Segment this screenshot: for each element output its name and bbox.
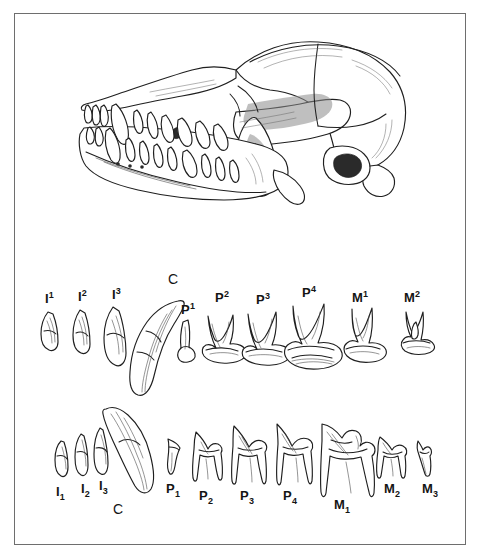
upper-label-I1: I1: [45, 292, 54, 305]
lower-tooth-P4: [277, 424, 313, 485]
upper-label-P2: P2: [215, 291, 229, 304]
lower-label-I1: I1: [56, 485, 65, 498]
lower-tooth-P1: [168, 439, 180, 474]
upper-label-M1: M1: [352, 291, 368, 304]
lower-tooth-row: [55, 408, 432, 497]
skull-lateral-view: [79, 42, 405, 205]
upper-tooth-P4: [285, 304, 343, 369]
upper-tooth-P1: [178, 320, 195, 362]
illustration-plate: .ol{fill:#ffffff;stroke:#1f1f1f;stroke-w…: [0, 0, 477, 555]
lower-label-P4: P4: [283, 489, 297, 502]
lower-tooth-I2: [75, 434, 88, 476]
lower-label-C: C: [113, 502, 123, 516]
upper-tooth-I1: [41, 312, 58, 351]
lower-label-M2: M2: [384, 482, 400, 495]
lower-tooth-M3: [417, 441, 431, 476]
lower-tooth-P3: [232, 426, 267, 484]
upper-label-P1: P1: [181, 303, 195, 316]
upper-tooth-P2: [202, 315, 246, 363]
lower-tooth-M1: [321, 424, 375, 497]
upper-tooth-M1: [344, 308, 386, 362]
upper-tooth-row: [41, 301, 435, 396]
upper-label-I3: I3: [112, 288, 121, 301]
lower-tooth-I3: [94, 428, 108, 474]
lower-label-P2: P2: [199, 489, 213, 502]
upper-label-M2: M2: [404, 291, 420, 304]
upper-tooth-M2: [401, 312, 434, 354]
upper-label-I2: I2: [78, 290, 87, 303]
upper-label-P4: P4: [302, 286, 316, 299]
lower-tooth-C: [103, 408, 154, 493]
upper-label-P3: P3: [256, 293, 270, 306]
upper-tooth-C: [130, 301, 184, 396]
lower-label-M3: M3: [422, 482, 438, 495]
lower-label-I2: I2: [81, 482, 90, 495]
upper-tooth-I2: [73, 310, 90, 354]
upper-tooth-I3: [104, 307, 126, 366]
lower-label-M1: M1: [334, 498, 350, 511]
upper-tooth-P3: [242, 312, 290, 365]
lower-tooth-M2: [377, 437, 407, 478]
lower-tooth-P2: [193, 432, 223, 481]
upper-label-C: C: [168, 272, 178, 286]
lower-tooth-I1: [55, 441, 68, 477]
lower-label-I3: I3: [99, 479, 108, 492]
plate-artwork: .ol{fill:#ffffff;stroke:#1f1f1f;stroke-w…: [0, 0, 477, 555]
lower-label-P1: P1: [166, 482, 180, 495]
lower-label-P3: P3: [240, 489, 254, 502]
